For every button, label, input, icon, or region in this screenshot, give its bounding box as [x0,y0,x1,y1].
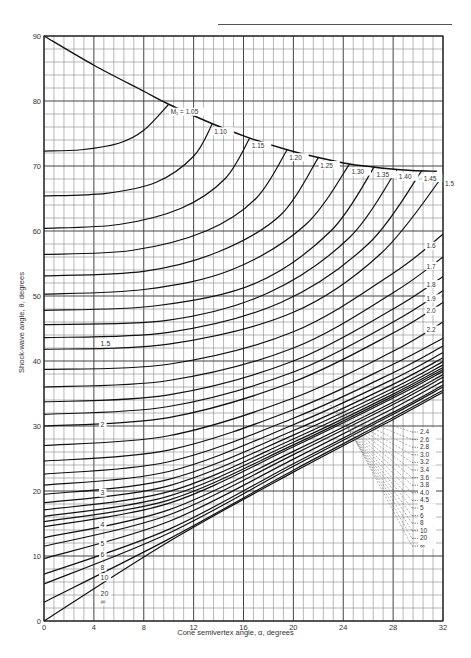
axes: 0481216202428320102030405060708090 [33,32,448,633]
curve-label: 2.2 [427,326,436,333]
x-axis-label: Cone semivertex angle, α, degrees [0,628,471,637]
curve-label: 1.20 [289,154,302,161]
curve-label: 1.10 [214,128,227,135]
curve-label: 1.45 [424,175,437,182]
y-tick-label: 50 [33,292,41,301]
legend-entry: 10 [420,527,428,534]
curve-label: 3 [101,489,105,496]
shock-angle-chart: M₁ = 1.051.101.151.201.251.301.351.401.4… [0,0,471,658]
y-tick-label: 0 [37,617,41,626]
curve-label: 4 [101,521,105,528]
y-axis-label: Shock-wave angle, θ, degrees [17,228,26,418]
curve-label: M₁ = 1.05 [171,108,199,115]
curve-label: 1.5 [101,340,111,347]
curve-labels: M₁ = 1.051.101.151.201.251.301.351.401.4… [99,108,460,606]
y-tick-label: 10 [33,552,41,561]
legend-entry: 5 [420,504,424,511]
legend-entry: 6 [420,512,424,519]
legend-entry: 4.0 [420,489,429,496]
detachment-envelope [44,36,437,171]
y-tick-label: 30 [33,422,41,431]
legend-entry: ∞ [420,542,425,549]
curve-label: ∞ [101,598,106,605]
mach-curve [44,150,287,255]
y-tick-label: 70 [33,162,41,171]
y-tick-label: 60 [33,227,41,236]
curve-label: 1.30 [351,168,364,175]
curve-label: 1.5 [445,180,454,187]
curve-label: 20 [101,590,109,597]
curve-label: 1.6 [427,242,436,249]
curve-label: 1.8 [427,281,436,288]
chart-canvas: M₁ = 1.051.101.151.201.251.301.351.401.4… [0,0,471,658]
y-tick-label: 20 [33,487,41,496]
legend-leader-dashed [342,421,412,493]
curve-label: 1.40 [399,173,412,180]
legend-leader-dashed [347,427,413,516]
mach-curve [44,171,422,338]
curve-label: 6 [101,551,105,558]
legend-leader-dashed [344,423,413,500]
curve-label: 1.9 [427,295,436,302]
curve-label: 1.35 [376,171,389,178]
legend-entry: 2.4 [420,428,429,435]
curve-label: 2.0 [427,307,436,314]
legend-entry: 2.6 [420,436,429,443]
legend-entry: 2.8 [420,443,429,450]
curve-label: 2 [101,421,105,428]
legend-entry: 3.0 [420,451,429,458]
curve-label: 1.25 [320,162,333,169]
mach-curve [44,124,212,196]
y-tick-label: 40 [33,357,41,366]
y-tick-label: 80 [33,97,41,106]
curve-label: 8 [101,564,105,571]
mach-curve [44,138,250,228]
curve-label: 1.7 [427,263,436,270]
mach-curve [44,158,318,276]
mach-curve [44,104,169,151]
legend-entry: 3.8 [420,481,429,488]
legend-entry: 4.5 [420,496,429,503]
envelope-curve [44,36,437,171]
curve-label: 10 [101,574,109,581]
mach-curve [44,169,397,324]
legend-entry: 3.4 [420,466,429,473]
legend-entry: 20 [420,534,428,541]
legend-entry: 3.6 [420,474,429,481]
y-tick-label: 90 [33,32,41,41]
curve-label: 1.15 [252,142,265,149]
legend-entry: 3.2 [420,458,429,465]
legend-entry: 8 [420,519,424,526]
legend-leader-dashed [350,431,413,531]
curve-label: 5 [101,540,105,547]
